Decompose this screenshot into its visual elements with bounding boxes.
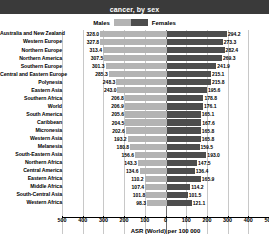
value-label-females: 195.6 xyxy=(208,88,221,93)
bar-males xyxy=(147,200,167,206)
male-half: 248.3 xyxy=(65,79,167,85)
bar-females xyxy=(167,160,197,166)
value-label-males: 301.3 xyxy=(92,64,105,69)
row-label: Central America xyxy=(0,168,65,173)
female-half: 114.2 xyxy=(167,184,269,190)
male-half: 134.6 xyxy=(65,168,167,174)
value-label-females: 165.9 xyxy=(202,176,215,181)
row-bars: 156.6193.0 xyxy=(65,151,269,159)
bar-males xyxy=(145,184,167,190)
value-label-males: 243.0 xyxy=(104,88,117,93)
row-label: Western Africa xyxy=(0,200,65,205)
row-label: Australia and New Zealand xyxy=(0,31,65,36)
female-half: 273.3 xyxy=(167,39,269,45)
row-bars: 206.8178.8 xyxy=(65,94,269,102)
row-track: 243.0195.6 xyxy=(65,86,269,94)
chart-row: Southern Europe301.3241.9 xyxy=(0,62,269,70)
value-label-females: 147.5 xyxy=(198,160,211,165)
row-track: 313.4282.4 xyxy=(65,46,269,54)
bar-males xyxy=(126,127,167,133)
row-bars: 328.0294.2 xyxy=(65,30,269,38)
x-tick-label: 100 xyxy=(140,218,149,223)
row-track: 134.6136.4 xyxy=(65,167,269,175)
row-label: Eastern Asia xyxy=(0,88,65,93)
row-bars: 313.4282.4 xyxy=(65,46,269,54)
x-tick-label: 400 xyxy=(244,218,253,223)
value-label-females: 215.8 xyxy=(212,80,225,85)
x-tick-label: 500 xyxy=(58,218,67,223)
chart-row: Western Europe327.8273.3 xyxy=(0,38,269,46)
male-half: 206.9 xyxy=(65,103,167,109)
value-label-females: 167.6 xyxy=(202,120,215,125)
row-label: Southern Europe xyxy=(0,64,65,69)
row-track: 204.5167.6 xyxy=(65,119,269,127)
x-tick-mark xyxy=(228,216,229,218)
x-tick-mark xyxy=(103,216,104,218)
chart-container: cancer, by sex Males Females Australia a… xyxy=(0,0,269,234)
chart-row: Northern Europe313.4282.4 xyxy=(0,46,269,54)
chart-row: South-Eastern Asia156.6193.0 xyxy=(0,151,269,159)
chart-title-bar: cancer, by sex xyxy=(0,0,269,14)
row-label: World xyxy=(0,104,65,109)
legend-swatch-females xyxy=(131,19,148,26)
row-label: Northern America xyxy=(0,56,65,61)
x-tick-mark xyxy=(166,216,167,218)
value-label-females: 159.5 xyxy=(201,144,214,149)
legend-label-females: Females xyxy=(152,20,176,26)
value-label-males: 327.8 xyxy=(87,40,100,45)
value-label-males: 307.5 xyxy=(91,56,104,61)
female-half: 165.8 xyxy=(167,136,269,142)
bar-males xyxy=(106,63,167,69)
bar-females xyxy=(167,111,201,117)
male-half: 285.3 xyxy=(65,71,167,77)
x-tick-mark xyxy=(207,216,208,218)
bar-females xyxy=(167,87,207,93)
bar-males xyxy=(146,192,167,198)
value-label-females: 165.8 xyxy=(202,136,215,141)
bar-males xyxy=(125,103,167,109)
female-half: 215.8 xyxy=(167,79,269,85)
value-label-females: 269.3 xyxy=(223,56,236,61)
female-half: 101.5 xyxy=(167,192,269,198)
row-label: Western Europe xyxy=(0,39,65,44)
row-track: 193.2165.8 xyxy=(65,135,269,143)
x-tick-mark xyxy=(62,216,63,218)
bar-females xyxy=(167,192,188,198)
female-half: 159.5 xyxy=(167,144,269,150)
bar-females xyxy=(167,63,216,69)
value-label-females: 282.4 xyxy=(226,48,239,53)
row-track: 202.6165.8 xyxy=(65,127,269,135)
female-half: 167.6 xyxy=(167,119,269,125)
row-bars: 285.3215.1 xyxy=(65,70,269,78)
plot-area: Australia and New Zealand328.0294.2Weste… xyxy=(0,30,269,234)
legend-swatch-males xyxy=(114,19,131,26)
row-bars: 180.8159.5 xyxy=(65,143,269,151)
x-tick-label: 200 xyxy=(120,218,129,223)
row-label: Western Asia xyxy=(0,136,65,141)
female-half: 269.3 xyxy=(167,55,269,61)
bar-males xyxy=(116,79,167,85)
row-label: Northern Europe xyxy=(0,48,65,53)
male-half: 204.5 xyxy=(65,119,167,125)
bar-males xyxy=(135,152,167,158)
female-half: 176.1 xyxy=(167,103,269,109)
row-label: Northern Africa xyxy=(0,160,65,165)
row-bars: 107.4114.2 xyxy=(65,183,269,191)
row-bars: 101.8101.5 xyxy=(65,191,269,199)
row-label: Eastern Africa xyxy=(0,176,65,181)
chart-row: World206.9176.1 xyxy=(0,102,269,110)
x-tick-label: 500 xyxy=(265,218,270,223)
row-track: 285.3215.1 xyxy=(65,70,269,78)
chart-row: Southern Africa206.8178.8 xyxy=(0,94,269,102)
bar-females xyxy=(167,31,227,37)
x-tick-mark xyxy=(248,216,249,218)
row-bars: 193.2165.8 xyxy=(65,135,269,143)
value-label-males: 313.4 xyxy=(90,48,103,53)
bar-females xyxy=(167,200,192,206)
bar-females xyxy=(167,168,195,174)
female-half: 165.9 xyxy=(167,176,269,182)
chart-row: South-Central Asia101.8101.5 xyxy=(0,191,269,199)
row-bars: 301.3241.9 xyxy=(65,62,269,70)
x-axis-ticks: 5004003002001000100200300400500 xyxy=(62,218,269,226)
x-axis-label: ASR (World) per 100 000 xyxy=(62,228,269,234)
